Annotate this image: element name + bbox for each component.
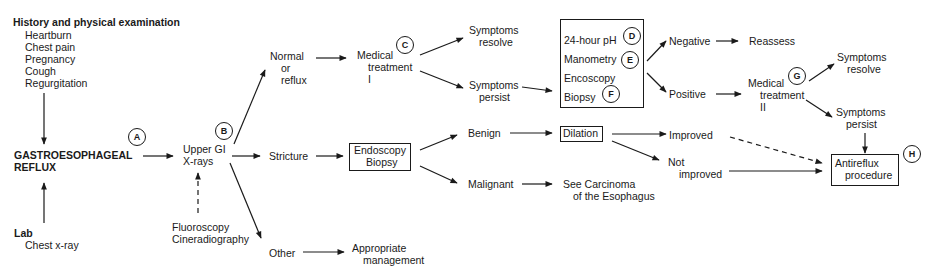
dilation-label: Dilation [563,127,598,139]
antireflux-line2: procedure [845,169,892,181]
history-item-cough: Cough [25,65,56,77]
history-title: History and physical examination [13,16,180,28]
not-improved-line2: improved [679,168,722,180]
arrow-endo-to-benign [420,135,457,150]
test-24h-ph: 24-hour pH [564,34,617,46]
marker-d: D [623,27,641,45]
sym-resolve1-line2: resolve [479,36,513,48]
arrow-endo-to-malignant [420,166,457,183]
arrow-tests-to-positive [647,73,666,92]
history-item-chest-pain: Chest pain [25,41,75,53]
med2-line3: II [760,101,766,113]
test-manometry: Manometry [564,53,617,65]
carcinoma-line2: of the Esophagus [573,190,655,202]
marker-g: G [788,67,806,85]
history-item-pregnancy: Pregnancy [25,53,75,65]
arrow-med2-to-resolve [809,64,834,81]
endo-line2: Biopsy [366,156,398,168]
marker-a: A [128,128,146,146]
sym-persist1-line1: Symptoms [469,79,519,91]
marker-f: F [602,85,620,103]
med1-line2: treatment [368,61,412,73]
other-label: Other [269,247,295,259]
fluoro-line2: Cineradiography [172,233,249,245]
arrow-dilation-to-notimproved [612,141,659,160]
sym-resolve1-line1: Symptoms [469,24,519,36]
sym-resolve2-line2: resolve [847,63,881,75]
arrow-med2-to-persist [806,100,832,117]
arrow-tests-to-negative [647,41,666,61]
marker-e: E [621,51,639,69]
normal-line3: reflux [281,74,307,86]
sym-persist1-line2: persist [479,91,510,103]
sym-resolve2-line1: Symptoms [837,51,887,63]
upper-gi-line1: Upper GI [183,143,226,155]
appropriate-line1: Appropriate [352,242,406,254]
malignant-label: Malignant [468,178,514,190]
negative-label: Negative [669,35,710,47]
lab-title: Lab [14,227,33,239]
carcinoma-line1: See Carcinoma [563,178,635,190]
sym-persist2-line2: persist [846,118,877,130]
med2-line1: Medical [748,77,784,89]
lab-item-chest-xray: Chest x-ray [25,239,79,251]
upper-gi-line2: X-rays [183,155,213,167]
marker-h: H [903,145,921,163]
history-item-heartburn: Heartburn [25,29,72,41]
arrow-persist-to-tests [522,87,552,91]
benign-label: Benign [468,127,501,139]
marker-c: C [396,36,414,54]
normal-line1: Normal [270,50,304,62]
arrow-med1-to-persist [420,71,463,88]
sym-persist2-line1: Symptoms [836,106,886,118]
test-biopsy: Biopsy [564,91,596,103]
med1-line3: I [368,73,371,85]
history-item-regurgitation: Regurgitation [25,77,87,89]
positive-label: Positive [669,88,706,100]
test-encoscopy: Encoscopy [564,72,615,84]
appropriate-line2: management [363,254,424,266]
normal-line2: or [281,62,290,74]
endo-line1: Endoscopy [354,144,406,156]
arrow-med1-to-resolve [420,38,463,55]
med1-line1: Medical [357,49,393,61]
improved-label: Improved [669,129,713,141]
arrow-improved-to-antireflux-dashed [730,137,822,163]
antireflux-line1: Antireflux [835,157,879,169]
arrow-ugi-to-normal [234,70,265,144]
not-improved-line1: Not [668,156,684,168]
arrow-ugi-to-other [230,163,261,238]
ger-title-line1: GASTROESOPHAGEAL [14,149,132,161]
fluoro-line1: Fluoroscopy [172,221,229,233]
reassess-label: Reassess [749,35,795,47]
med2-line2: treatment [760,89,804,101]
ger-title-line2: REFLUX [14,161,56,173]
stricture-label: Stricture [269,150,308,162]
marker-b: B [215,122,233,140]
